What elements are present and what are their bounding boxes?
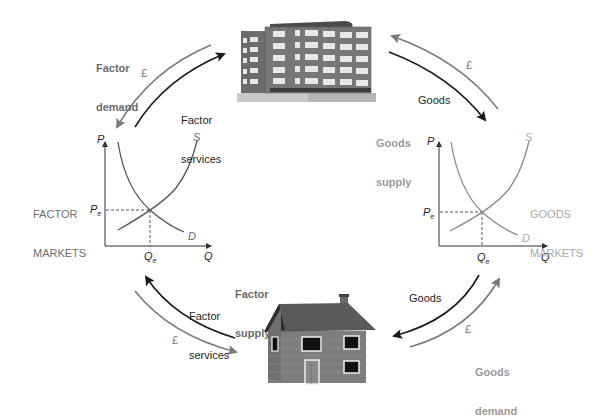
- goods-p-axis-label: P: [427, 135, 434, 148]
- house-icon: [264, 294, 376, 384]
- goods-markets-title: GOODS MARKETS: [530, 182, 583, 286]
- factor-services-top-label: Factor services: [181, 88, 221, 192]
- goods-supply-label: Goods supply: [376, 111, 411, 215]
- office-building-icon: [237, 21, 376, 102]
- factor-markets-title: FACTOR MARKETS: [33, 182, 86, 286]
- factor-q-axis-label: Q: [204, 250, 213, 263]
- factor-services-bottom-label: Factor services: [189, 284, 229, 388]
- goods-bottom-label: Goods: [409, 292, 441, 305]
- factor-demand-money-label: £: [141, 67, 147, 80]
- goods-demand-curve: [451, 142, 518, 235]
- factor-supply-money-label: £: [172, 334, 178, 347]
- factor-demand-label: D: [188, 230, 196, 243]
- factor-supply-label: Factor supply: [235, 262, 270, 366]
- goods-qe-label: Qe: [477, 251, 489, 268]
- factor-demand-label: Factor demand: [96, 36, 138, 140]
- goods-demand-money-arrow: [410, 279, 499, 347]
- goods-demand-money-label: £: [465, 323, 471, 336]
- goods-pe-label: Pe: [423, 206, 434, 223]
- goods-demand-label: Goods demand: [475, 340, 517, 419]
- factor-qe-label: Qe: [144, 250, 156, 267]
- goods-top-label: Goods: [418, 94, 450, 107]
- factor-demand-curve: [118, 142, 184, 232]
- goods-demand-label: D: [522, 232, 530, 245]
- factor-pe-label: Pe: [90, 203, 101, 220]
- goods-money-top-label: £: [466, 59, 472, 72]
- goods-supply-label: S: [525, 131, 532, 144]
